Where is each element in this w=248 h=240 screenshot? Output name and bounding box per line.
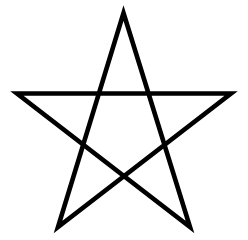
pentagram-canvas: Pentagram A five-pointed star (pentagram… — [0, 0, 248, 240]
background-rect — [0, 0, 248, 240]
pentagram-svg: Pentagram — [0, 0, 248, 240]
